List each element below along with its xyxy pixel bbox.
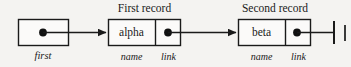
linked-list-diagram: First record Second record alpha beta fi… bbox=[0, 0, 351, 67]
first-pointer-label: first bbox=[18, 51, 68, 62]
second-record-name-field-label: name bbox=[238, 52, 285, 62]
first-record-name-field-label: name bbox=[108, 52, 155, 62]
second-record-name-value: beta bbox=[238, 27, 285, 39]
first-record-name-value: alpha bbox=[108, 27, 155, 39]
second-record-link-field-label: link bbox=[286, 52, 311, 62]
first-record-caption: First record bbox=[106, 3, 183, 15]
first-record-link-field-label: link bbox=[156, 52, 181, 62]
second-record-caption: Second record bbox=[232, 3, 318, 15]
